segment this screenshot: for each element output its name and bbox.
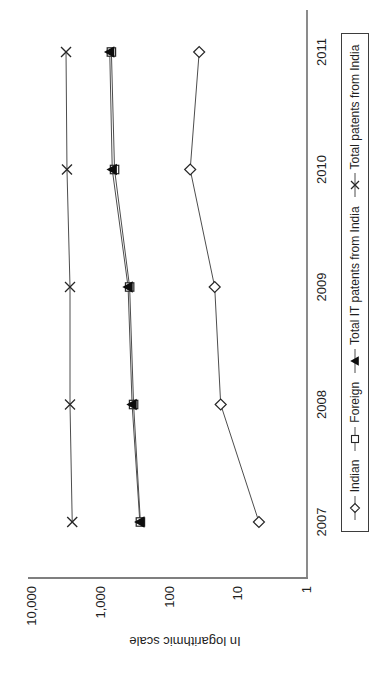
rotated-line-chart-page: 1101001,00010,000 20072008200920102011 I…	[0, 0, 372, 678]
legend-square-open-icon	[349, 427, 361, 451]
y-tick-label: 1	[299, 586, 315, 678]
marker-diamond-open-indian	[209, 282, 220, 293]
y-tick-label: 10,000	[24, 586, 40, 678]
y-axis-title: In logarithmic scale	[95, 632, 275, 650]
legend-label: Foreign	[348, 382, 362, 423]
x-tick-label-2009: 2009	[314, 252, 330, 322]
legend-item-total-patents-from-india: Total patents from India	[348, 45, 362, 198]
legend-label: Total IT patents from India	[348, 206, 362, 345]
x-tick-label-2008: 2008	[314, 370, 330, 440]
legend-item-indian: Indian	[348, 460, 362, 521]
marker-diamond-open-indian	[215, 399, 226, 410]
legend-label: Indian	[348, 460, 362, 493]
legend-diamond-open-icon	[349, 496, 361, 520]
legend-item-foreign: Foreign	[348, 382, 362, 451]
marker-diamond-open-indian	[253, 517, 264, 528]
legend-item-total-it-patents-from-india: Total IT patents from India	[348, 206, 362, 373]
marker-diamond-open-indian	[185, 164, 196, 175]
x-tick-label-2011: 2011	[314, 17, 330, 87]
marker-diamond-open-indian	[194, 47, 205, 58]
legend-box: IndianForeignTotal IT patents from India…	[341, 33, 369, 532]
legend-label: Total patents from India	[348, 45, 362, 170]
legend-triangle-filled-icon	[349, 349, 361, 373]
series-line-indian	[190, 52, 259, 522]
x-tick-label-2010: 2010	[314, 135, 330, 205]
legend-x-cross-icon	[349, 173, 361, 197]
plot-area	[0, 0, 372, 678]
x-tick-label-2007: 2007	[314, 487, 330, 557]
chart-landscape-canvas: 1101001,00010,000 20072008200920102011 I…	[0, 0, 372, 678]
